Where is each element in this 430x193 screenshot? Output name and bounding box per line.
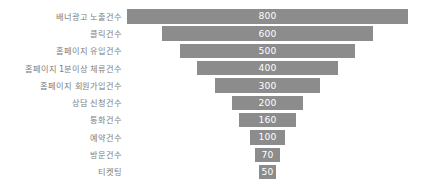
funnel-row[interactable]: 방문건수 70 <box>0 146 430 163</box>
funnel-bar-track: 50 <box>127 164 430 181</box>
funnel-bar-value: 200 <box>259 98 277 108</box>
funnel-bar[interactable]: 70 <box>255 148 280 162</box>
funnel-bar[interactable]: 600 <box>162 26 373 40</box>
funnel-bar[interactable]: 400 <box>197 61 338 75</box>
funnel-bar-value: 300 <box>259 81 277 91</box>
funnel-bar-value: 600 <box>259 29 277 39</box>
funnel-bar-track: 500 <box>127 43 430 60</box>
funnel-bar-track: 400 <box>127 60 430 77</box>
funnel-row[interactable]: 통화건수 160 <box>0 112 430 129</box>
funnel-bar[interactable]: 160 <box>239 113 295 127</box>
funnel-row[interactable]: 홈페이지 회원가입건수 300 <box>0 77 430 94</box>
funnel-bar-value: 400 <box>259 63 277 73</box>
funnel-stage-label: 배너광고 노출건수 <box>0 12 127 22</box>
funnel-bar[interactable]: 200 <box>232 96 302 110</box>
funnel-row[interactable]: 예약건수 100 <box>0 129 430 146</box>
funnel-bar[interactable]: 800 <box>127 9 408 23</box>
funnel-bar-track: 300 <box>127 77 430 94</box>
funnel-stage-label: 예약건수 <box>0 133 127 143</box>
funnel-bar[interactable]: 500 <box>180 44 356 58</box>
funnel-bar-value: 100 <box>259 132 277 142</box>
funnel-stage-label: 홈페이지 유입건수 <box>0 46 127 56</box>
funnel-row[interactable]: 홈페이지 1분이상 체류건수 400 <box>0 60 430 77</box>
funnel-row[interactable]: 상담 신청건수 200 <box>0 94 430 111</box>
funnel-bar-value: 160 <box>259 115 277 125</box>
funnel-bar[interactable]: 100 <box>250 130 285 144</box>
funnel-row[interactable]: 클릭건수 600 <box>0 25 430 42</box>
funnel-bar[interactable]: 50 <box>259 165 277 179</box>
funnel-row[interactable]: 홈페이지 유입건수 500 <box>0 43 430 60</box>
funnel-stage-label: 상담 신청건수 <box>0 98 127 108</box>
funnel-row-list: 배너광고 노출건수 800 클릭건수 600 홈페이지 유입건수 500 <box>0 8 430 181</box>
funnel-bar-track: 600 <box>127 25 430 42</box>
funnel-bar-track: 70 <box>127 146 430 163</box>
funnel-stage-label: 홈페이지 1분이상 체류건수 <box>0 64 127 74</box>
funnel-bar-track: 800 <box>127 8 430 25</box>
funnel-row[interactable]: 배너광고 노출건수 800 <box>0 8 430 25</box>
funnel-bar-value: 70 <box>262 150 274 160</box>
funnel-bar[interactable]: 300 <box>215 78 320 92</box>
funnel-bar-track: 200 <box>127 94 430 111</box>
funnel-stage-label: 방문건수 <box>0 150 127 160</box>
funnel-bar-track: 160 <box>127 112 430 129</box>
funnel-bar-track: 100 <box>127 129 430 146</box>
funnel-bar-value: 800 <box>259 11 277 21</box>
funnel-stage-label: 통화건수 <box>0 115 127 125</box>
funnel-stage-label: 티켓팅 <box>0 167 127 177</box>
funnel-bar-value: 50 <box>262 167 274 177</box>
funnel-stage-label: 홈페이지 회원가입건수 <box>0 81 127 91</box>
funnel-bar-value: 500 <box>259 46 277 56</box>
funnel-stage-label: 클릭건수 <box>0 29 127 39</box>
funnel-chart: 배너광고 노출건수 800 클릭건수 600 홈페이지 유입건수 500 <box>0 0 430 193</box>
funnel-row[interactable]: 티켓팅 50 <box>0 164 430 181</box>
